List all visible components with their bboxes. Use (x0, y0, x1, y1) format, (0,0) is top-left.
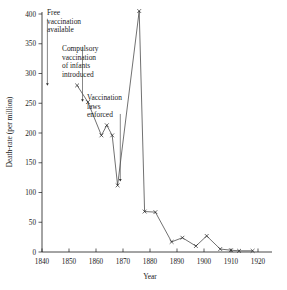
annotations-layer: FreevaccinationavailableCompulsoryvaccin… (47, 8, 122, 181)
y-tick-label: 400 (25, 11, 36, 19)
data-point-marker (100, 133, 104, 137)
data-point-marker (194, 244, 198, 248)
x-tick-label: 1910 (224, 258, 239, 266)
annotation-text-line: available (47, 25, 74, 34)
data-series-layer (75, 9, 254, 253)
data-polyline (77, 11, 253, 251)
y-tick-label: 0 (32, 249, 36, 257)
x-tick-label: 1850 (62, 258, 77, 266)
annotation-text-line: introduced (62, 70, 94, 79)
x-tick-label: 1890 (170, 258, 185, 266)
smallpox-death-rate-line-chart: 050100150200250300350400 Death-rate (per… (0, 0, 287, 290)
y-axis-label: Death-rate (per million) (5, 96, 14, 167)
x-axis: 184018501860187018801890190019101920 Yea… (35, 249, 272, 282)
x-axis-ticks: 184018501860187018801890190019101920 (35, 249, 266, 267)
data-point-marker (181, 236, 185, 240)
y-tick-label: 300 (25, 70, 36, 78)
data-point-marker (205, 234, 209, 238)
data-point-marker (170, 240, 174, 244)
annotation-text-line: enforced (87, 110, 113, 119)
y-tick-label: 250 (25, 100, 36, 108)
x-tick-label: 1860 (89, 258, 104, 266)
y-tick-label: 50 (29, 219, 37, 227)
annotation-vaccination-laws-enforced: Vaccinationlawsenforced (87, 93, 122, 181)
data-point-marker (75, 84, 79, 88)
y-tick-label: 150 (25, 159, 36, 167)
x-tick-label: 1880 (143, 258, 158, 266)
y-tick-label: 350 (25, 40, 36, 48)
x-tick-label: 1870 (116, 258, 131, 266)
x-tick-label: 1900 (197, 258, 212, 266)
y-tick-label: 200 (25, 130, 36, 138)
x-axis-label: Year (143, 272, 157, 281)
data-point-marker (105, 123, 109, 127)
y-axis: 050100150200250300350400 Death-rate (per… (5, 11, 42, 257)
x-tick-label: 1920 (251, 258, 266, 266)
y-axis-ticks: 050100150200250300350400 (25, 11, 42, 257)
y-tick-label: 100 (25, 189, 36, 197)
x-tick-label: 1840 (35, 258, 50, 266)
